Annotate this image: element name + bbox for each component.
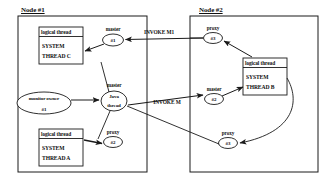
- proxy-3-top-caption: proxy: [207, 26, 219, 31]
- threada-to-proxy2-arrow: [84, 140, 102, 144]
- thread-b-header: logical thread: [245, 61, 275, 66]
- java-thread-line2: thread: [107, 103, 120, 108]
- thread-c-line1: SYSTEM: [42, 44, 64, 50]
- proxy-3-bottom-text: #3: [226, 141, 231, 146]
- master-2-text: #2: [212, 97, 217, 102]
- invoke-m1-label: INVOKE M1: [144, 30, 174, 35]
- node2-title: Node #2: [199, 7, 223, 14]
- monitor-owner-line2: #1: [42, 107, 47, 112]
- node1-title: Node #1: [21, 7, 45, 14]
- master2-to-threadb-arrow: [222, 87, 243, 96]
- proxy-3-top-text: #3: [211, 36, 216, 41]
- thread-c-header: logical thread: [41, 30, 71, 35]
- thread-b-line2: THREAD B: [246, 85, 274, 91]
- invoke-m-label: INVOKE M: [153, 100, 180, 105]
- proxy-2-left-text: #2: [111, 140, 116, 145]
- proxy3bottom-to-node1-line: [127, 106, 219, 144]
- proxy-2-left-caption: proxy: [107, 130, 119, 135]
- javathread-to-proxy2-arrow: [98, 111, 110, 139]
- monitor-owner-line1: monitor owner: [29, 96, 59, 101]
- thread-a-line1: SYSTEM: [42, 146, 64, 152]
- thread-b-line1: SYSTEM: [246, 75, 268, 81]
- master1-to-threadc-arrow: [85, 44, 104, 51]
- java-thread-caption: master: [107, 83, 122, 88]
- master-2-caption: master: [207, 87, 222, 92]
- proxy-3-bottom-caption: proxy: [222, 131, 234, 136]
- thread-a-header: logical thread: [41, 132, 71, 137]
- master-1-text: #1: [111, 38, 116, 43]
- distributed-thread-diagram: Node #1 Node #2 logical thread SYSTEM TH…: [0, 0, 327, 189]
- java-thread-line1: Java: [109, 94, 119, 99]
- thread-a-line2: THREAD A: [42, 156, 70, 162]
- thread-c-line2: THREAD C: [42, 54, 71, 60]
- master-1-caption: master: [106, 27, 121, 32]
- threadb-to-proxy3top-arrow: [224, 41, 252, 57]
